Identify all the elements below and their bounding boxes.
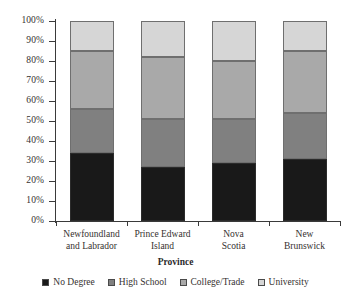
x-axis-category-nb: NewBrunswick: [269, 228, 340, 252]
bar-segment-pe-high-school: [141, 119, 185, 167]
y-axis-tick-label: 40%: [0, 136, 44, 146]
x-axis-category-ns: NovaScotia: [198, 228, 269, 252]
y-axis-tick: [49, 81, 55, 82]
y-axis-tick-label: 100%: [0, 16, 44, 26]
y-axis-tick-label: 80%: [0, 56, 44, 66]
x-axis-category-pe: Prince EdwardIsland: [127, 228, 198, 252]
stacked-bar-chart: 100%90%80%70%60%50%40%30%20%10%0% Newfou…: [0, 0, 351, 299]
bar-segment-pe-university: [141, 21, 185, 57]
legend-label: No Degree: [53, 277, 94, 287]
x-axis-category-nl: Newfoundlandand Labrador: [56, 228, 127, 252]
y-axis-tick-label: 50%: [0, 116, 44, 126]
y-axis-tick: [49, 121, 55, 122]
x-axis-category-line: Brunswick: [269, 240, 340, 252]
x-axis-tick: [127, 221, 128, 226]
y-axis-tick: [49, 161, 55, 162]
x-axis-category-line: Island: [127, 240, 198, 252]
y-axis-tick: [49, 221, 55, 222]
legend-item-university[interactable]: University: [258, 277, 309, 287]
x-axis-category-line: Nova: [198, 228, 269, 240]
legend-label: University: [269, 277, 309, 287]
legend-swatch-icon: [180, 279, 187, 286]
bar-segment-ns-no-degree: [212, 163, 256, 221]
legend-swatch-icon: [42, 279, 49, 286]
bar-segment-nb-college-trade: [283, 51, 327, 113]
x-axis-tick: [269, 221, 270, 226]
legend-item-no-degree[interactable]: No Degree: [42, 277, 94, 287]
bar-segment-ns-high-school: [212, 119, 256, 163]
y-axis-tick-label: 10%: [0, 196, 44, 206]
bar-ns: [212, 21, 256, 221]
bar-segment-ns-university: [212, 21, 256, 61]
y-axis-tick: [49, 141, 55, 142]
bar-segment-pe-no-degree: [141, 167, 185, 221]
bar-segment-ns-college-trade: [212, 61, 256, 119]
bar-segment-nl-university: [70, 21, 114, 51]
legend-item-college-trade[interactable]: College/Trade: [180, 277, 245, 287]
x-axis-category-line: and Labrador: [56, 240, 127, 252]
bar-segment-pe-college-trade: [141, 57, 185, 119]
plot-area: [56, 21, 340, 221]
bar-nl: [70, 21, 114, 221]
bar-segment-nb-high-school: [283, 113, 327, 159]
y-axis-tick: [49, 61, 55, 62]
y-axis-tick-label: 0%: [0, 216, 44, 226]
y-axis-tick: [49, 181, 55, 182]
x-axis-tick: [198, 221, 199, 226]
legend-label: High School: [119, 277, 167, 287]
legend-label: College/Trade: [191, 277, 245, 287]
x-axis-tick: [340, 221, 341, 226]
bar-pe: [141, 21, 185, 221]
legend-swatch-icon: [258, 279, 265, 286]
y-axis-tick: [49, 201, 55, 202]
bar-segment-nl-no-degree: [70, 153, 114, 221]
x-axis-title: Province: [0, 257, 351, 267]
bar-segment-nb-no-degree: [283, 159, 327, 221]
bar-segment-nl-high-school: [70, 109, 114, 153]
bar-nb: [283, 21, 327, 221]
legend-item-high-school[interactable]: High School: [108, 277, 167, 287]
x-axis-category-line: Scotia: [198, 240, 269, 252]
y-axis-tick-label: 70%: [0, 76, 44, 86]
y-axis-tick: [49, 101, 55, 102]
x-axis-category-line: New: [269, 228, 340, 240]
x-axis-tick: [56, 221, 57, 226]
legend-swatch-icon: [108, 279, 115, 286]
y-axis-tick-label: 30%: [0, 156, 44, 166]
y-axis-tick-label: 60%: [0, 96, 44, 106]
x-axis-category-line: Prince Edward: [127, 228, 198, 240]
y-axis-tick: [49, 21, 55, 22]
y-axis-tick: [49, 41, 55, 42]
bar-segment-nb-university: [283, 21, 327, 51]
y-axis-tick-label: 90%: [0, 36, 44, 46]
x-axis-category-line: Newfoundland: [56, 228, 127, 240]
chart-legend: No DegreeHigh SchoolCollege/TradeUnivers…: [0, 277, 351, 287]
bar-segment-nl-college-trade: [70, 51, 114, 109]
y-axis-tick-label: 20%: [0, 176, 44, 186]
